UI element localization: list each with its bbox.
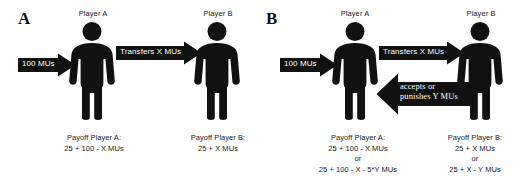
panel-a: A Player A Player B xyxy=(0,0,258,194)
payoff-line-alt: 25 + 100 - X - 5*Y MUs xyxy=(300,165,416,176)
panel-a-payoff-player-b: Payoff Player B: 25 + X MUs xyxy=(166,133,270,154)
payoff-title: Payoff Player B: xyxy=(423,133,521,144)
panel-b-letter: B xyxy=(266,10,277,27)
panel-a-player-b-label: Player B xyxy=(183,10,253,18)
figure-canvas: A Player A Player B xyxy=(0,0,521,194)
panel-b: B Player A Player B xyxy=(258,0,521,194)
panel-a-player-b-figure xyxy=(193,21,241,121)
payoff-line: 25 + 100 - X MUs xyxy=(300,144,416,155)
panel-a-payoff-player-a: Payoff Player A: 25 + 100 - X MUs xyxy=(42,133,146,154)
panel-b-payoff-player-b: Payoff Player B: 25 + X MUs or 25 + X - … xyxy=(423,133,521,176)
payoff-title: Payoff Player A: xyxy=(42,133,146,144)
person-pictogram-icon xyxy=(331,21,379,121)
panel-b-payoff-player-a: Payoff Player A: 25 + 100 - X MUs or 25 … xyxy=(300,133,416,176)
person-pictogram-icon xyxy=(193,21,241,121)
payoff-line: 25 + X MUs xyxy=(423,144,521,155)
payoff-or: or xyxy=(300,154,416,165)
payoff-line-alt: 25 + X - Y MUs xyxy=(423,165,521,176)
payoff-title: Payoff Player B: xyxy=(166,133,270,144)
panel-b-endowment-arrow-label: 100 MUs xyxy=(284,60,317,69)
payoff-title: Payoff Player A: xyxy=(300,133,416,144)
panel-b-player-a-figure xyxy=(331,21,379,121)
panel-b-punishment-arrow-label-line2: punishes Y MUs xyxy=(400,92,458,102)
panel-b-player-b-label: Player B xyxy=(446,10,516,18)
panel-b-transfer-arrow-label: Transfers X MUs xyxy=(383,48,444,57)
panel-a-letter: A xyxy=(18,10,30,27)
panel-a-endowment-arrow-label: 100 MUs xyxy=(22,60,55,69)
payoff-line: 25 + X MUs xyxy=(166,144,270,155)
payoff-or: or xyxy=(423,154,521,165)
payoff-line: 25 + 100 - X MUs xyxy=(42,144,146,155)
panel-a-player-a-label: Player A xyxy=(58,10,128,18)
panel-b-player-a-label: Player A xyxy=(320,10,390,18)
panel-a-transfer-arrow-label: Transfers X MUs xyxy=(120,48,181,57)
